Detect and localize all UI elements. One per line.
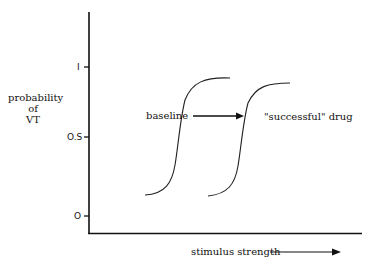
baseline-curve [145, 78, 230, 195]
drug-label: "successful" drug [264, 111, 353, 122]
y-axis-label-line2: of [8, 103, 58, 114]
y-axis-label-line1: probability [8, 92, 58, 103]
tick-label-half: O.S [67, 132, 82, 142]
drug-curve [208, 83, 290, 196]
tick-label-one: I [77, 62, 80, 72]
tick-label-zero: O [74, 211, 81, 221]
y-axis-label: probability of VT [8, 92, 58, 125]
baseline-label: baseline [146, 110, 188, 121]
x-axis-label: stimulus strength [191, 246, 280, 257]
x-axis-arrow-head [332, 249, 341, 256]
shift-arrow-head [236, 113, 244, 120]
chart-canvas [0, 0, 370, 273]
y-axis-label-line3: VT [8, 114, 58, 125]
